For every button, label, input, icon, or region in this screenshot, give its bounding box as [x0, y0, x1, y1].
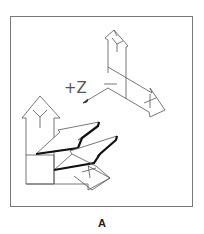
- figure-caption: A: [0, 217, 204, 229]
- ucs-icon-3d-view: +Z: [64, 30, 165, 117]
- z-axis-label: +Z: [64, 79, 87, 97]
- ucs-icon-broken-pencil: [22, 96, 117, 190]
- ucs-diagram: +Z: [0, 0, 204, 234]
